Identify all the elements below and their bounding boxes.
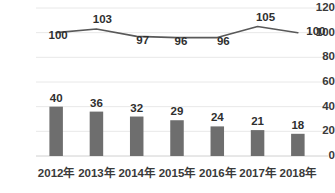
bar-value-label: 40 [50,93,63,105]
x-axis-tick-label: 2012年 [38,168,75,180]
y-axis-tick-label: 120 [303,2,335,14]
bar [251,130,264,156]
line-value-label: 100 [306,26,325,38]
x-axis-tick-label: 2018年 [280,168,317,180]
line-value-label: 100 [49,30,68,42]
bar-value-label: 32 [130,103,143,115]
bar [170,120,184,156]
line-value-label: 97 [136,35,149,47]
y-axis-tick-label: 80 [303,52,335,64]
bar [130,117,144,156]
bar-value-label: 21 [251,116,264,128]
x-axis-tick-label: 2017年 [239,168,276,180]
x-axis-tick-label: 2013年 [78,168,115,180]
combo-chart: 020406080100120 2012年2013年2014年2015年2016… [0,0,335,193]
line-value-label: 96 [175,36,188,48]
bar-value-label: 24 [211,112,224,124]
y-axis-tick-label: 40 [303,101,335,113]
bar-value-label: 18 [291,120,304,132]
bar-value-label: 36 [90,98,103,110]
y-axis-tick-label: 0 [303,150,335,162]
x-axis-tick-label: 2014年 [118,168,155,180]
y-axis-tick-label: 60 [303,76,335,88]
line-value-label: 96 [217,36,230,48]
x-axis-tick-label: 2016年 [199,168,236,180]
y-axis-tick-label: 20 [303,126,335,138]
bar [49,107,63,156]
bar [90,112,104,156]
bar-value-label: 29 [171,106,184,118]
bar [211,126,225,156]
line-value-label: 105 [256,12,275,24]
line-value-label: 103 [93,14,112,26]
x-axis-tick-label: 2015年 [159,168,196,180]
